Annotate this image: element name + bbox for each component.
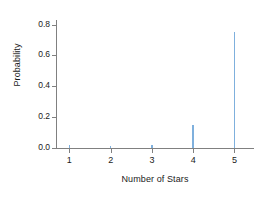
data-spike bbox=[192, 125, 194, 148]
y-tick-label: 0.8 bbox=[38, 19, 50, 29]
y-tick-label: 0.2 bbox=[38, 111, 50, 121]
x-tick-mark bbox=[111, 149, 112, 153]
x-tick: 1 bbox=[69, 149, 70, 150]
x-tick-mark bbox=[193, 149, 194, 153]
plot-area bbox=[57, 20, 253, 148]
x-tick-mark bbox=[234, 149, 235, 153]
y-tick: 0.4 bbox=[0, 86, 56, 87]
x-tick-label: 2 bbox=[101, 155, 121, 165]
y-tick-mark bbox=[52, 25, 56, 26]
x-tick: 2 bbox=[111, 149, 112, 150]
y-tick: 0.0 bbox=[0, 148, 56, 149]
x-axis-title: Number of Stars bbox=[57, 174, 253, 184]
x-axis-spine bbox=[56, 148, 254, 149]
data-spike bbox=[151, 145, 153, 148]
x-tick-mark bbox=[152, 149, 153, 153]
y-tick-mark bbox=[52, 148, 56, 149]
y-tick: 0.6 bbox=[0, 55, 56, 56]
y-tick: 0.8 bbox=[0, 25, 56, 26]
y-tick-label: 0.4 bbox=[38, 80, 50, 90]
data-spike bbox=[69, 145, 71, 148]
x-tick-mark bbox=[69, 149, 70, 153]
y-tick-label: 0.0 bbox=[38, 142, 50, 152]
y-tick-mark bbox=[52, 117, 56, 118]
probability-spike-chart: Probability 0.00.20.40.60.8 12345 Number… bbox=[0, 0, 273, 200]
x-tick-label: 5 bbox=[224, 155, 244, 165]
data-spike bbox=[110, 146, 112, 148]
y-axis-title: Probability bbox=[12, 0, 26, 140]
x-tick: 3 bbox=[152, 149, 153, 150]
y-tick-mark bbox=[52, 55, 56, 56]
x-tick-label: 3 bbox=[142, 155, 162, 165]
x-tick: 5 bbox=[234, 149, 235, 150]
x-tick-label: 4 bbox=[183, 155, 203, 165]
x-tick-label: 1 bbox=[59, 155, 79, 165]
y-tick-mark bbox=[52, 86, 56, 87]
y-tick: 0.2 bbox=[0, 117, 56, 118]
data-spike bbox=[234, 32, 236, 148]
y-tick-label: 0.6 bbox=[38, 49, 50, 59]
x-tick: 4 bbox=[193, 149, 194, 150]
